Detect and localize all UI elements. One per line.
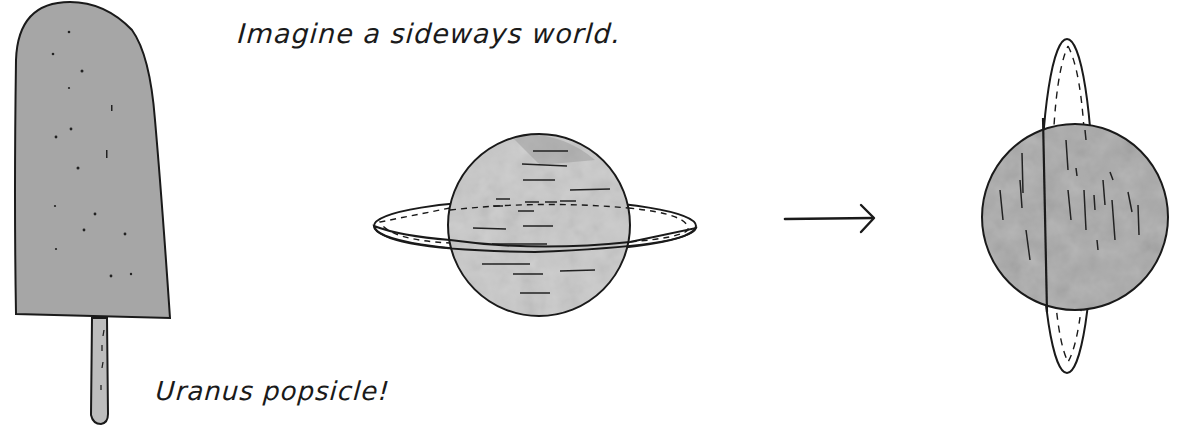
popsicle-icon: [15, 2, 170, 424]
planet-vertical-rings-icon: [982, 39, 1168, 373]
planet-horizontal-rings-icon: [374, 134, 696, 316]
right-arrow-icon: [785, 205, 874, 232]
illustration-canvas: [0, 0, 1183, 430]
